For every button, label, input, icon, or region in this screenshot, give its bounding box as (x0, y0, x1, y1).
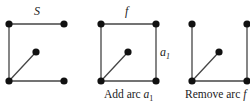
graph-s (5, 20, 67, 84)
caption-remove-arc-text: Remove arc (185, 88, 243, 100)
node (124, 48, 131, 55)
edge (192, 52, 219, 81)
node (32, 48, 39, 55)
caption-add-arc-sub: 1 (149, 94, 153, 103)
node (5, 77, 12, 84)
node (60, 77, 67, 84)
graph-remove-arc (188, 20, 250, 84)
caption-add-arc: Add arc a1 (104, 88, 153, 103)
node (60, 20, 67, 27)
label-a1-sub: 1 (166, 52, 170, 61)
node (152, 20, 159, 27)
node (215, 48, 222, 55)
node (152, 77, 159, 84)
node (97, 77, 104, 84)
caption-remove-arc: Remove arc f (185, 88, 248, 101)
node (188, 77, 195, 84)
label-f: f (125, 4, 130, 18)
node (97, 20, 104, 27)
graph-add-arc (97, 20, 159, 84)
node (188, 20, 195, 27)
node (243, 77, 250, 84)
edge (9, 52, 36, 81)
node (5, 20, 12, 27)
diagram-canvas: S f a1 Add arc a1 Remove arc f (0, 0, 250, 109)
label-s: S (34, 4, 40, 18)
caption-add-arc-text: Add arc (104, 88, 144, 100)
label-a1: a1 (160, 45, 170, 61)
caption-remove-arc-var: f (243, 88, 248, 101)
edge (101, 52, 128, 81)
node (243, 20, 250, 27)
